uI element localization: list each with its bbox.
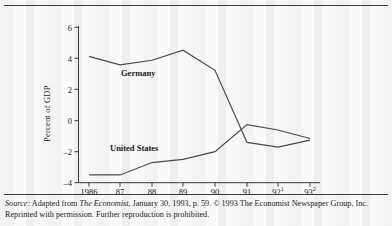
x-tick-text-87: 87 — [116, 187, 125, 197]
series-line-germany — [89, 50, 310, 147]
x-tick-label-89: 89 — [168, 187, 198, 197]
bottom-rule — [4, 194, 388, 195]
chart-axes — [79, 26, 321, 183]
source-publication: The Economist — [80, 199, 129, 208]
x-tick-label-90: 90 — [200, 187, 230, 197]
y-axis-ticks — [75, 27, 79, 182]
y-tick-label-4: 4 — [56, 54, 72, 64]
series-label-united-states: United States — [110, 143, 158, 153]
x-tick-footnote-marker-93: 2 — [313, 186, 316, 192]
y-tick-label-neg4: –4 — [56, 178, 72, 188]
x-tick-text-88: 88 — [148, 187, 157, 197]
x-tick-label-87: 87 — [105, 187, 135, 197]
y-tick-label-0: 0 — [56, 116, 72, 126]
x-tick-text-1986: 1986 — [81, 187, 98, 197]
y-tick-label-2: 2 — [56, 85, 72, 95]
x-tick-label-92: 921 — [263, 187, 293, 197]
x-tick-text-91: 91 — [243, 187, 252, 197]
source-note: Source: Adapted from The Economist, Janu… — [5, 198, 387, 221]
x-tick-text-89: 89 — [179, 187, 188, 197]
chart-plot-area: Percent of GDP 6 4 2 0 –2 –4 1986 87 88 … — [0, 0, 392, 192]
source-text-lead: Adapted from — [30, 199, 79, 208]
x-tick-text-90: 90 — [211, 187, 220, 197]
x-tick-label-1986: 1986 — [74, 187, 104, 197]
x-tick-label-91: 91 — [232, 187, 262, 197]
figure-container: Percent of GDP 6 4 2 0 –2 –4 1986 87 88 … — [0, 0, 392, 226]
x-tick-label-93: 932 — [295, 187, 325, 197]
x-tick-label-88: 88 — [137, 187, 167, 197]
y-axis-title: Percent of GDP — [42, 85, 52, 142]
x-tick-text-92: 92 — [272, 187, 281, 197]
series-label-germany: Germany — [121, 68, 155, 78]
source-label: Source: — [5, 199, 30, 208]
x-tick-footnote-marker-92: 1 — [281, 186, 284, 192]
y-tick-label-neg2: –2 — [56, 147, 72, 157]
y-tick-label-6: 6 — [56, 23, 72, 33]
x-tick-text-93: 93 — [304, 187, 313, 197]
